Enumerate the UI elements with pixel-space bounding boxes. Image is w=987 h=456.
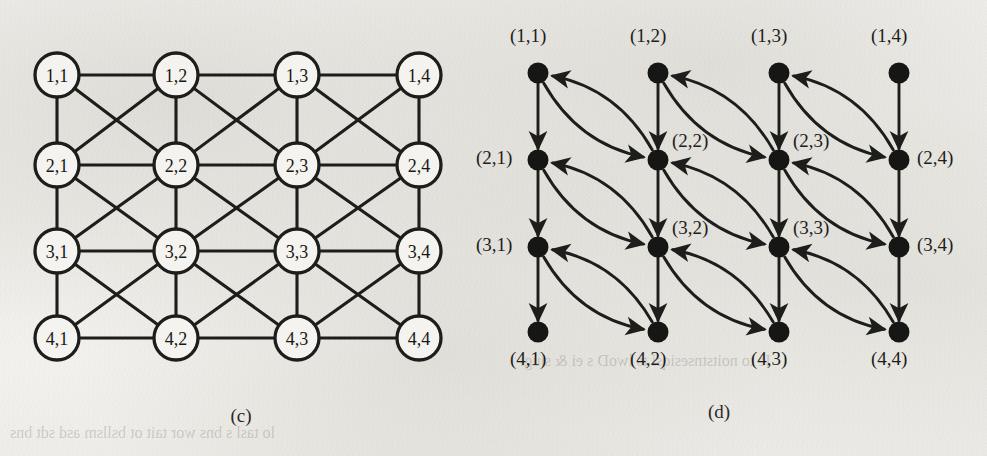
node-label: 4,1	[46, 329, 69, 349]
node-label: (4,3)	[751, 348, 787, 370]
graph-node-circle: 1,1	[35, 53, 79, 97]
graph-node-circle: 2,1	[35, 143, 79, 187]
node-label: 2,4	[408, 156, 431, 176]
graph-node-dot	[528, 322, 549, 343]
graph-node-circle: 4,1	[35, 316, 79, 360]
node-label: (1,3)	[751, 25, 787, 47]
graph-node-dot	[889, 150, 910, 171]
edge-arc-backward	[553, 250, 653, 322]
graph-node-circle: 1,4	[397, 53, 441, 97]
edge-arc-backward	[553, 163, 653, 237]
caption-d: (d)	[694, 401, 744, 423]
graph-node-dot	[769, 150, 790, 171]
node-label: 4,4	[408, 329, 431, 349]
node-label: (4,4)	[871, 348, 907, 370]
panel-c-edges	[57, 75, 419, 338]
edge-arc-backward	[794, 250, 894, 322]
panel-c: 1,11,21,31,42,12,22,32,43,13,23,33,44,14…	[0, 0, 500, 400]
node-label: 1,3	[286, 66, 309, 86]
edge-arc-forward	[664, 257, 764, 329]
graph-node-circle: 3,3	[275, 229, 319, 273]
panel-d-svg	[487, 0, 987, 400]
node-label: (1,2)	[630, 25, 666, 47]
node-label: (1,4)	[871, 25, 907, 47]
panel-c-svg: 1,11,21,31,42,12,22,32,43,13,23,33,44,14…	[0, 0, 500, 400]
graph-node-dot	[648, 322, 669, 343]
edge-arc-backward	[673, 250, 773, 322]
figure-page: lo tasl s bns wor tait ot bsllsm asd sdt…	[0, 0, 987, 456]
graph-node-circle: 2,2	[154, 143, 198, 187]
node-label: 3,4	[408, 242, 431, 262]
graph-node-dot	[648, 150, 669, 171]
graph-node-circle: 4,3	[275, 316, 319, 360]
node-label: 1,4	[408, 66, 431, 86]
panel-d-edges	[538, 76, 899, 329]
node-label: 2,3	[286, 156, 309, 176]
panel-d: (1,1)(1,2)(1,3)(1,4)(2,1)(2,2)(2,3)(2,4)…	[487, 0, 987, 400]
node-label: 1,1	[46, 66, 69, 86]
graph-node-circle: 2,3	[275, 143, 319, 187]
graph-node-dot	[648, 63, 669, 84]
graph-node-dot	[889, 322, 910, 343]
panel-d-nodes	[528, 63, 910, 343]
node-label: 2,2	[165, 156, 188, 176]
edge-arc-forward	[544, 170, 644, 244]
graph-node-circle: 3,1	[35, 229, 79, 273]
graph-node-circle: 3,2	[154, 229, 198, 273]
graph-node-dot	[889, 237, 910, 258]
edge-arc-backward	[553, 76, 653, 150]
graph-node-circle: 4,4	[397, 316, 441, 360]
node-label: (3,2)	[672, 217, 708, 239]
node-label: (4,1)	[510, 348, 546, 370]
node-label: 1,2	[165, 66, 188, 86]
node-label: 2,1	[46, 156, 69, 176]
graph-node-circle: 2,4	[397, 143, 441, 187]
node-label: (4,2)	[630, 348, 666, 370]
graph-node-dot	[769, 322, 790, 343]
graph-node-dot	[769, 237, 790, 258]
edge-arc-forward	[544, 83, 644, 157]
edge-arc-forward	[544, 257, 644, 329]
graph-node-circle: 1,2	[154, 53, 198, 97]
graph-node-circle: 1,3	[275, 53, 319, 97]
edge-arc-forward	[785, 257, 885, 329]
node-label: (3,4)	[917, 234, 953, 256]
graph-node-dot	[769, 63, 790, 84]
node-label: (3,3)	[793, 217, 829, 239]
graph-node-dot	[528, 150, 549, 171]
node-label: (2,1)	[476, 147, 512, 169]
graph-node-dot	[648, 237, 669, 258]
node-label: (1,1)	[510, 25, 546, 47]
graph-node-dot	[528, 237, 549, 258]
node-label: 3,2	[165, 242, 188, 262]
node-label: (2,4)	[917, 147, 953, 169]
graph-node-circle: 4,2	[154, 316, 198, 360]
node-label: (2,2)	[672, 130, 708, 152]
node-label: 4,2	[165, 329, 188, 349]
node-label: (2,3)	[793, 130, 829, 152]
caption-c: (c)	[216, 405, 266, 427]
node-label: 3,1	[46, 242, 69, 262]
node-label: 3,3	[286, 242, 309, 262]
node-label: 4,3	[286, 329, 309, 349]
graph-node-dot	[528, 63, 549, 84]
graph-node-circle: 3,4	[397, 229, 441, 273]
node-label: (3,1)	[476, 234, 512, 256]
graph-node-dot	[889, 63, 910, 84]
